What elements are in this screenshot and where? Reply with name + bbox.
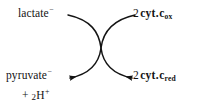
crossed-arrows-group — [0, 0, 202, 111]
lactate-to-pyruvate-arrow — [70, 15, 135, 78]
reaction-diagram: lactate− 2cyt.cox pyruvate− + 2H+ 2cyt.c… — [0, 0, 202, 111]
cytochrome-ox-to-red-arrow — [68, 15, 132, 78]
